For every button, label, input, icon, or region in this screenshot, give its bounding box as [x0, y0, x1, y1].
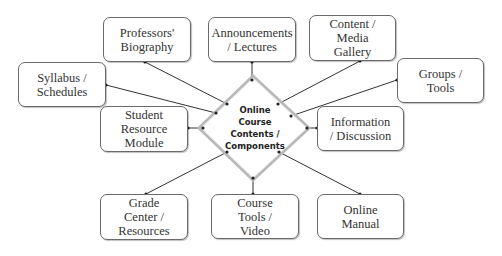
node-announcements-lectures: Announcements / Lectures — [208, 17, 296, 62]
node-content-media-gallery: Content / Media Gallery — [309, 15, 396, 61]
diagram-canvas: Online Course Contents / Components Prof… — [0, 0, 502, 256]
center-label: Online Course Contents / Components — [205, 100, 305, 156]
edge-to-grade-center-resources — [146, 152, 227, 194]
node-professors-biography: Professors' Biography — [103, 17, 191, 62]
node-student-resource-module: Student Resource Module — [100, 106, 188, 152]
edge-endpoint-dot — [250, 78, 253, 81]
node-information-discussion: Information / Discussion — [317, 106, 404, 151]
edge-to-content-media-gallery — [278, 61, 360, 104]
node-online-manual: Online Manual — [317, 194, 404, 239]
node-course-tools-video: Course Tools / Video — [211, 194, 299, 239]
node-syllabus-schedules: Syllabus / Schedules — [18, 62, 106, 107]
node-grade-center-resources: Grade Center / Resources — [100, 194, 188, 240]
edge-to-online-manual — [279, 152, 360, 194]
node-groups-tools: Groups / Tools — [397, 58, 484, 103]
edge-endpoint-dot — [305, 126, 308, 129]
edge-endpoint-dot — [251, 176, 254, 179]
